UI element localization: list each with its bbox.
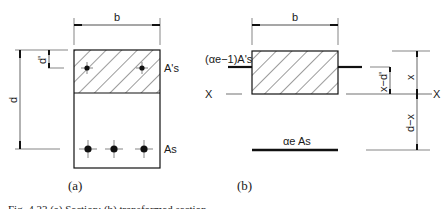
- figure-caption: Fig. 4.23 (a) Section; (b) transformed s…: [8, 203, 207, 209]
- tension-bars: [79, 140, 153, 158]
- width-dimension-a: b: [74, 11, 160, 45]
- caption-a: (a): [68, 178, 82, 193]
- panel-a: b A's As: [7, 11, 179, 193]
- transformed-compression-zone: [252, 51, 338, 94]
- dim-label-d-minus-x: d−x: [404, 113, 416, 132]
- dim-label-x-minus-dprime: x−d': [377, 72, 389, 92]
- caption-b: (b): [237, 178, 252, 193]
- width-label-a: b: [114, 11, 120, 23]
- neutral-axis-label-left: X: [205, 88, 213, 100]
- neutral-axis-label-right: X: [433, 88, 441, 100]
- tension-steel-label-a: As: [164, 143, 177, 155]
- depth-dimensions-b: x d−x x−d': [366, 51, 430, 150]
- tension-steel-label-b: αe As: [283, 135, 311, 147]
- compression-steel-label-a: A's: [164, 62, 179, 74]
- depth-label-d: d: [7, 97, 19, 103]
- panel-b: b (αe−1)A's X X αe As x d−x x−: [205, 11, 441, 193]
- width-label-b: b: [292, 11, 298, 23]
- cover-label-dprime: d': [36, 56, 48, 64]
- compression-steel-label-b: (αe−1)A's: [205, 53, 253, 65]
- dim-label-x: x: [404, 74, 416, 80]
- width-dimension-b: b: [252, 11, 338, 45]
- reinforced-concrete-section-diagram: b A's As: [0, 0, 447, 209]
- cover-dimension-dprime: d': [36, 50, 64, 68]
